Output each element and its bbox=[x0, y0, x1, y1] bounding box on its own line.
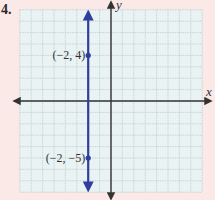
data-point bbox=[86, 53, 91, 58]
y-axis-label: y bbox=[114, 0, 122, 12]
data-point bbox=[86, 155, 91, 160]
point-label: (−2, 4) bbox=[52, 48, 85, 62]
coordinate-plane: x y (−2, 4)(−2, −5) bbox=[0, 0, 215, 200]
point-label: (−2, −5) bbox=[46, 151, 86, 165]
x-axis-label: x bbox=[205, 84, 212, 99]
